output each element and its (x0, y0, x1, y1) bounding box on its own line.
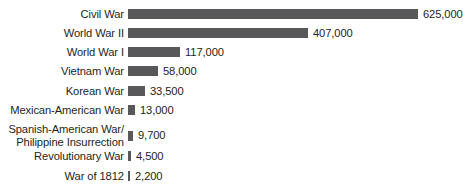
bar (128, 86, 145, 96)
bar-row: Vietnam War 58,000 (0, 65, 462, 77)
bar-row: Korean War 33,500 (0, 85, 462, 97)
category-label: Vietnam War (0, 65, 124, 77)
bar-area: 407,000 (124, 27, 462, 39)
category-label: Revolutionary War (0, 150, 124, 162)
bar-row: World War I 117,000 (0, 46, 462, 58)
category-label: World War II (0, 27, 124, 39)
bar (128, 66, 158, 76)
bar-value-label: 625,000 (423, 8, 463, 20)
bar-area: 625,000 (124, 8, 462, 20)
category-label: Mexican-American War (0, 104, 124, 116)
category-label: Spanish-American War/ Philippine Insurre… (0, 123, 124, 148)
bar-row: Spanish-American War/ Philippine Insurre… (0, 123, 462, 148)
bar-area: 13,000 (124, 104, 462, 116)
bar-area: 117,000 (124, 46, 462, 58)
bar-value-label: 33,500 (150, 85, 184, 97)
category-label: World War I (0, 46, 124, 58)
bar (128, 151, 131, 161)
category-label: War of 1812 (0, 170, 124, 182)
bar (128, 47, 180, 57)
bar-row: Revolutionary War 4,500 (0, 150, 462, 162)
category-label: Korean War (0, 85, 124, 97)
bar-area: 4,500 (124, 150, 462, 162)
category-label: Civil War (0, 8, 124, 20)
bar-area: 2,200 (124, 170, 462, 182)
bar-value-label: 13,000 (140, 104, 174, 116)
bar (128, 28, 308, 38)
bar (128, 131, 133, 141)
bar-area: 58,000 (124, 65, 462, 77)
bar-value-label: 58,000 (163, 65, 197, 77)
bar-area: 9,700 (124, 129, 462, 141)
bar-value-label: 2,200 (135, 170, 163, 182)
bar (128, 9, 418, 19)
bar-row: Mexican-American War 13,000 (0, 104, 462, 116)
bar (128, 105, 135, 115)
bar-value-label: 4,500 (136, 150, 164, 162)
bar-value-label: 9,700 (138, 129, 166, 141)
bar-row: War of 1812 2,200 (0, 170, 462, 182)
bar (128, 171, 130, 181)
bar-value-label: 407,000 (313, 27, 353, 39)
bar-row: Civil War 625,000 (0, 8, 462, 20)
bar-value-label: 117,000 (185, 46, 224, 58)
bar-area: 33,500 (124, 85, 462, 97)
bar-row: World War II 407,000 (0, 27, 462, 39)
